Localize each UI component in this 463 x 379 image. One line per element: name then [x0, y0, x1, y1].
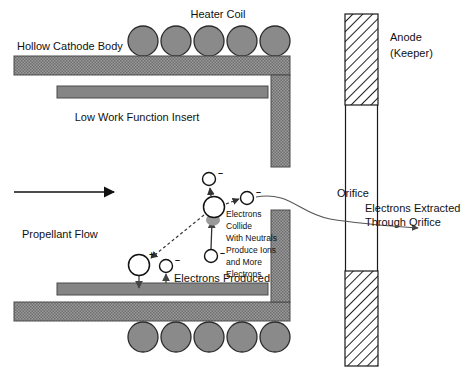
heater-coil-circle — [161, 26, 191, 56]
anode-label-line1: Anode — [390, 31, 422, 43]
heater-coil-bottom-row — [128, 322, 290, 352]
heater-coil-circle — [194, 26, 224, 56]
propellant-flow-label: Propellant Flow — [22, 228, 98, 240]
low-work-function-insert-lower — [57, 283, 268, 295]
cathode-body-bottom-plate — [14, 302, 290, 321]
electron-lower-left-charge: – — [175, 255, 180, 265]
ion-lower-left — [129, 255, 150, 276]
anode-upper-segment — [345, 14, 378, 105]
ion-lower-left-charge: + — [149, 250, 154, 260]
collision-note-line-3: With Neutrals — [226, 233, 277, 243]
electron-lower-center-charge: – — [220, 248, 225, 258]
anode-label-line2: (Keeper) — [390, 47, 433, 59]
heater-coil-circle — [128, 322, 158, 352]
heater-coil-circle — [227, 322, 257, 352]
orifice-label: Orifice — [337, 187, 369, 199]
electrons-extracted-line2: Through Orifice — [365, 216, 441, 228]
diagram-canvas: – – – + – Heater Coil Hollow Cathode Bod… — [0, 0, 463, 379]
central-ion — [204, 197, 225, 218]
hollow-cathode-diagram: – – – + – Heater Coil Hollow Cathode Bod… — [0, 0, 463, 379]
collision-note-line-5: and More — [226, 257, 262, 267]
cathode-body-lower-wall — [271, 210, 290, 302]
collision-note-line-6: Electrons — [226, 269, 261, 279]
heater-coil-circle — [260, 322, 290, 352]
electron-right-charge: – — [256, 187, 261, 197]
collision-note-line-1: Electrons — [226, 209, 261, 219]
anode-lower-segment — [345, 271, 378, 366]
electron-lower-left — [160, 260, 173, 273]
electron-lower-center — [205, 250, 218, 263]
electrons-extracted-line1: Electrons Extracted — [365, 202, 460, 214]
heater-coil-top-row — [128, 26, 290, 56]
low-work-function-insert-label: Low Work Function Insert — [75, 111, 200, 123]
heater-coil-circle — [194, 322, 224, 352]
heater-coil-label: Heater Coil — [190, 8, 245, 20]
electron-upper-charge: – — [218, 168, 223, 178]
collision-note-line-2: Collide — [226, 221, 252, 231]
collision-note-line-4: Produce Ions — [226, 245, 276, 255]
cathode-body-top-plate — [14, 56, 290, 75]
hollow-cathode-body-label: Hollow Cathode Body — [17, 40, 123, 52]
heater-coil-circle — [227, 26, 257, 56]
electron-right — [241, 192, 254, 205]
heater-coil-circle — [161, 322, 191, 352]
electron-upper — [203, 173, 216, 186]
heater-coil-circle — [260, 26, 290, 56]
low-work-function-insert-upper — [57, 86, 268, 98]
cathode-body-upper-wall — [271, 75, 290, 167]
heater-coil-circle — [128, 26, 158, 56]
